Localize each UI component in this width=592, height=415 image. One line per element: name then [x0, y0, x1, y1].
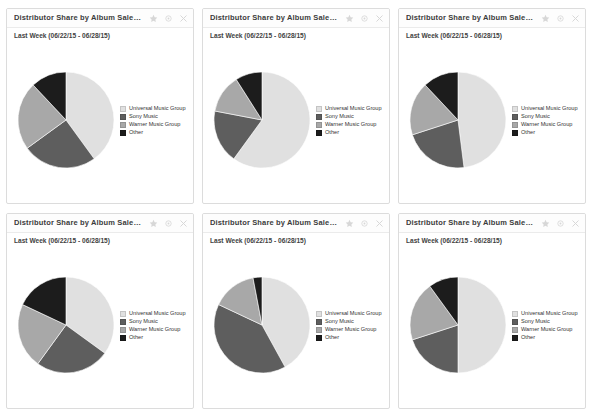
gear-icon[interactable] [360, 14, 369, 23]
chart-panel: Distributor Share by Album Sales (New) L… [202, 8, 390, 204]
legend-swatch [512, 130, 518, 136]
legend-item[interactable]: Universal Music Group [120, 310, 187, 317]
legend-item[interactable]: Sony Music [120, 318, 187, 325]
gear-icon[interactable] [360, 219, 369, 228]
legend-item[interactable]: Warner Music Group [512, 326, 579, 333]
legend-label: Other [521, 129, 535, 136]
star-icon[interactable] [345, 14, 354, 23]
legend-label: Other [325, 129, 339, 136]
close-icon[interactable] [375, 219, 384, 228]
legend-label: Other [129, 334, 143, 341]
legend-swatch [512, 327, 518, 333]
legend-item[interactable]: Sony Music [120, 113, 187, 120]
legend-item[interactable]: Universal Music Group [512, 105, 579, 112]
legend-label: Warner Music Group [325, 121, 376, 128]
legend-label: Other [521, 334, 535, 341]
legend-item[interactable]: Other [120, 334, 187, 341]
legend-label: Universal Music Group [325, 105, 382, 112]
legend-swatch [316, 327, 322, 333]
gear-icon[interactable] [164, 219, 173, 228]
gear-icon[interactable] [556, 14, 565, 23]
panel-header: Distributor Share by Album Sales (Physic… [7, 9, 193, 28]
pie-slice[interactable] [458, 277, 506, 373]
panel-tools [143, 219, 188, 228]
legend-item[interactable]: Sony Music [512, 113, 579, 120]
legend-swatch [120, 106, 126, 112]
panel-title: Distributor Share by Album Sales (Rock) [406, 219, 535, 227]
legend-item[interactable]: Sony Music [512, 318, 579, 325]
legend-label: Warner Music Group [521, 326, 572, 333]
panel-body: Last Week (06/22/15 - 06/28/15) Universa… [203, 28, 389, 203]
legend-label: Warner Music Group [325, 326, 376, 333]
panel-header: Distributor Share by Album Sales (Rock) [399, 214, 585, 233]
gear-icon[interactable] [556, 219, 565, 228]
date-range-subtitle: Last Week (06/22/15 - 06/28/15) [14, 33, 187, 40]
panel-tools [339, 14, 384, 23]
panel-header: Distributor Share by Album Sales (New) [203, 9, 389, 28]
star-icon[interactable] [149, 219, 158, 228]
legend-item[interactable]: Other [316, 334, 383, 341]
chart-area: Universal Music GroupSony MusicWarner Mu… [210, 42, 383, 199]
panel-tools [339, 219, 384, 228]
panel-body: Last Week (06/22/15 - 06/28/15) Universa… [399, 28, 585, 203]
legend-item[interactable]: Warner Music Group [512, 121, 579, 128]
panel-header: Distributor Share by Album Sales (Catalo… [7, 214, 193, 233]
panel-row-top: Distributor Share by Album Sales (Physic… [6, 8, 586, 204]
chart-panel: Distributor Share by Album Sales (Rock) … [398, 213, 586, 409]
legend-item[interactable]: Other [512, 334, 579, 341]
chart-area: Universal Music GroupSony MusicWarner Mu… [406, 247, 579, 404]
chart-legend: Universal Music GroupSony MusicWarner Mu… [510, 310, 579, 341]
legend-label: Universal Music Group [129, 105, 186, 112]
panel-tools [535, 219, 580, 228]
legend-item[interactable]: Warner Music Group [316, 121, 383, 128]
legend-label: Warner Music Group [521, 121, 572, 128]
close-icon[interactable] [571, 14, 580, 23]
legend-swatch [120, 327, 126, 333]
legend-item[interactable]: Warner Music Group [316, 326, 383, 333]
legend-item[interactable]: Sony Music [316, 113, 383, 120]
panel-row-bottom: Distributor Share by Album Sales (Catalo… [6, 213, 586, 409]
legend-label: Sony Music [325, 113, 354, 120]
legend-item[interactable]: Other [316, 129, 383, 136]
pie-slice[interactable] [458, 72, 506, 168]
legend-label: Universal Music Group [325, 310, 382, 317]
star-icon[interactable] [541, 14, 550, 23]
panel-title: Distributor Share by Album Sales (Physic… [14, 14, 143, 22]
legend-item[interactable]: Sony Music [316, 318, 383, 325]
chart-panel: Distributor Share by Album Sales (Catalo… [6, 213, 194, 409]
chart-legend: Universal Music GroupSony MusicWarner Mu… [510, 105, 579, 136]
close-icon[interactable] [571, 219, 580, 228]
legend-item[interactable]: Other [512, 129, 579, 136]
close-icon[interactable] [179, 14, 188, 23]
pie-chart [406, 71, 510, 169]
gear-icon[interactable] [164, 14, 173, 23]
legend-item[interactable]: Universal Music Group [316, 105, 383, 112]
panel-title: Distributor Share by Album Sales (Curren… [406, 14, 535, 22]
chart-area: Universal Music GroupSony MusicWarner Mu… [14, 247, 187, 404]
legend-swatch [512, 114, 518, 120]
legend-swatch [120, 114, 126, 120]
chart-legend: Universal Music GroupSony MusicWarner Mu… [314, 105, 383, 136]
legend-item[interactable]: Universal Music Group [316, 310, 383, 317]
legend-label: Universal Music Group [129, 310, 186, 317]
legend-item[interactable]: Universal Music Group [512, 310, 579, 317]
close-icon[interactable] [375, 14, 384, 23]
pie-chart [210, 71, 314, 169]
legend-swatch [316, 114, 322, 120]
panel-body: Last Week (06/22/15 - 06/28/15) Universa… [7, 233, 193, 408]
chart-panel: Distributor Share by Album Sales (Physic… [6, 8, 194, 204]
star-icon[interactable] [149, 14, 158, 23]
panel-header: Distributor Share by Album Sales (Curren… [399, 9, 585, 28]
close-icon[interactable] [179, 219, 188, 228]
legend-item[interactable]: Other [120, 129, 187, 136]
legend-item[interactable]: Warner Music Group [120, 326, 187, 333]
panel-title: Distributor Share by Album Sales (Catalo… [14, 219, 143, 227]
legend-item[interactable]: Warner Music Group [120, 121, 187, 128]
star-icon[interactable] [541, 219, 550, 228]
legend-item[interactable]: Universal Music Group [120, 105, 187, 112]
legend-swatch [316, 319, 322, 325]
date-range-subtitle: Last Week (06/22/15 - 06/28/15) [406, 33, 579, 40]
star-icon[interactable] [345, 219, 354, 228]
legend-label: Sony Music [521, 318, 550, 325]
legend-swatch [120, 122, 126, 128]
